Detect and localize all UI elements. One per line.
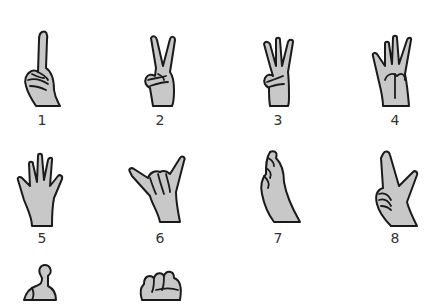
hand-five-icon bbox=[2, 146, 82, 236]
hand-two-icon bbox=[120, 28, 200, 118]
gesture-3: 3 bbox=[238, 28, 318, 138]
gesture-label: 2 bbox=[120, 112, 200, 128]
gesture-label: 6 bbox=[120, 230, 200, 246]
hand-hooked-index-icon bbox=[2, 264, 82, 305]
gesture-9-partial bbox=[2, 264, 82, 305]
gesture-6: 6 bbox=[120, 146, 200, 256]
gesture-label: 4 bbox=[355, 112, 435, 128]
gesture-7: 7 bbox=[238, 146, 318, 256]
gesture-8: 8 bbox=[355, 146, 435, 256]
gesture-1: 1 bbox=[2, 28, 82, 138]
hand-three-icon bbox=[238, 28, 318, 118]
hand-four-icon bbox=[355, 28, 435, 118]
hand-one-icon bbox=[2, 28, 82, 118]
gesture-label: 8 bbox=[355, 230, 435, 246]
gesture-label: 3 bbox=[238, 112, 318, 128]
hand-seven-icon bbox=[238, 146, 318, 236]
gesture-label: 5 bbox=[2, 230, 82, 246]
gesture-5: 5 bbox=[2, 146, 82, 256]
gesture-4: 4 bbox=[355, 28, 435, 138]
gesture-10-partial bbox=[120, 264, 200, 305]
hand-fist-icon bbox=[120, 264, 200, 305]
hand-six-icon bbox=[120, 146, 200, 236]
gesture-label: 7 bbox=[238, 230, 318, 246]
gesture-2: 2 bbox=[120, 28, 200, 138]
hand-eight-icon bbox=[355, 146, 435, 236]
gesture-label: 1 bbox=[2, 112, 82, 128]
